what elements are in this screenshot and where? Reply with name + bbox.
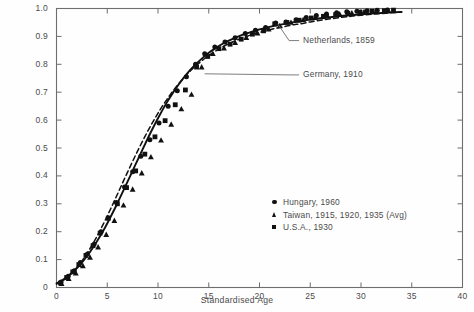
x-axis-title: Standardised Age (0, 295, 474, 305)
fitted-curves (57, 12, 402, 284)
y-tick-label: 0.2 (18, 226, 48, 236)
y-tick-label: 0.7 (18, 87, 48, 97)
square-marker-icon (272, 225, 283, 229)
y-tick-label: 0.4 (18, 170, 48, 180)
chart-figure: 00.10.20.30.40.50.60.70.80.91.0051015202… (0, 0, 474, 312)
y-tick-label: 0.1 (18, 254, 48, 264)
legend-label: U.S.A., 1930 (283, 222, 333, 232)
circle-marker-icon (272, 200, 283, 205)
annotation-netherlands: Netherlands, 1859 (303, 35, 375, 45)
chart-legend: Hungary, 1960 Taiwan, 1915, 1920, 1935 (… (272, 196, 407, 233)
y-tick-label: 1.0 (18, 3, 48, 13)
y-tick-label: 0.8 (18, 59, 48, 69)
data-points (58, 7, 396, 286)
triangle-marker-icon (272, 212, 283, 217)
y-tick-label: 0.3 (18, 198, 48, 208)
legend-label: Taiwan, 1915, 1920, 1935 (Avg) (283, 210, 407, 220)
y-tick-label: 0.5 (18, 143, 48, 153)
annotation-germany: Germany, 1910 (303, 69, 363, 79)
plot-frame (57, 9, 463, 288)
y-tick-label: 0.9 (18, 31, 48, 41)
legend-label: Hungary, 1960 (283, 197, 340, 207)
chart-canvas (0, 0, 474, 312)
legend-item-taiwan: Taiwan, 1915, 1920, 1935 (Avg) (272, 208, 407, 220)
axis-ticks (57, 9, 463, 288)
legend-item-usa: U.S.A., 1930 (272, 221, 407, 233)
legend-item-hungary: Hungary, 1960 (272, 196, 407, 208)
y-tick-label: 0.6 (18, 115, 48, 125)
